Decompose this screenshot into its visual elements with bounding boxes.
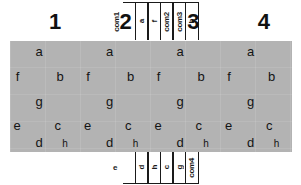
digit-cell-3: a f b g e c d h [151,41,222,152]
segment-label-b: b [57,70,64,83]
segment-label-c: c [266,119,273,132]
segment-label-h: h [274,137,280,150]
segment-label-d: d [35,136,42,149]
pin-bottom-2-label: d [137,165,146,170]
segment-label-g: g [176,95,183,108]
segment-label-a: a [35,45,42,58]
pin-bottom-1-label: e [113,163,117,172]
display-body: a f b g e c d h a f b g e c d h a f b g … [10,41,292,152]
segment-label-h: h [62,137,68,150]
segment-label-h: h [133,137,139,150]
pin-bottom-6: com4 [185,152,199,184]
segment-label-b: b [198,70,205,83]
segment-label-f: f [157,70,161,83]
segment-label-c: c [195,119,202,132]
pin-top-2-label: a [137,19,146,23]
pin-top-6: b [185,2,199,40]
digit-number-4: 4 [244,8,284,36]
segment-label-e: e [225,119,232,132]
pin-bottom-6-label: com4 [187,158,196,178]
segment-label-f: f [16,70,20,83]
segment-label-d: d [106,136,113,149]
digit-number-1: 1 [35,8,75,36]
pin-bottom-4-label: c [162,165,171,169]
segment-label-d: d [247,136,254,149]
digit-cell-row: a f b g e c d h a f b g e c d h a f b g … [10,41,292,152]
pin-top-4-label: com2 [162,12,171,32]
segment-label-b: b [127,70,134,83]
segment-label-f: f [86,70,90,83]
segment-label-e: e [155,119,162,132]
segment-label-b: b [268,70,275,83]
pin-bottom-3-label: h [150,165,159,170]
bottom-pin-header: e d h c g com4 [123,152,197,184]
segment-label-h: h [203,137,209,150]
top-pin-header: com1 a f com2 com3 b [123,2,197,40]
segment-label-a: a [106,45,113,58]
digit-cell-4: a f b g e c d h [222,41,293,152]
segment-label-g: g [35,95,42,108]
segment-label-d: d [176,136,183,149]
digit-cell-2: a f b g e c d h [81,41,152,152]
segment-label-g: g [106,95,113,108]
segment-label-g: g [247,95,254,108]
segment-label-c: c [54,119,61,132]
pin-bottom-5-label: g [175,165,184,170]
digit-cell-1: a f b g e c d h [10,41,81,152]
segment-label-a: a [247,45,254,58]
segment-label-a: a [176,45,183,58]
pin-top-6-label: b [187,19,196,24]
pin-top-1-label: com1 [112,12,121,32]
segment-label-e: e [84,119,91,132]
pin-top-5-label: com3 [175,12,184,32]
segment-label-e: e [14,119,21,132]
pin-top-3-label: f [150,20,159,22]
segment-label-f: f [227,70,231,83]
segment-label-c: c [125,119,132,132]
